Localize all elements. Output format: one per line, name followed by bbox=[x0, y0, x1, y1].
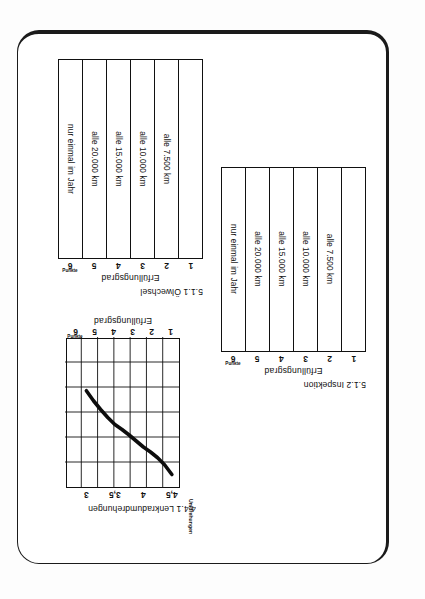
chart-data-curve bbox=[65, 337, 179, 487]
x-tick-label: 3,5 bbox=[109, 490, 121, 500]
scale-cell-text: nur einmal im Jahr bbox=[229, 224, 238, 294]
punkte-unit-note: Punkte bbox=[225, 357, 240, 370]
y-tick-label: 4 bbox=[104, 325, 123, 338]
figure-oelwechsel-tick-row: 1 2 3 4 5 6 Punkte bbox=[58, 259, 203, 272]
scale-cell bbox=[341, 168, 365, 351]
tick-label: 5 bbox=[245, 352, 269, 365]
tick-label: 2 bbox=[155, 259, 179, 272]
scale-cell: alle 20.000 km bbox=[245, 168, 269, 351]
tick-label: 4 bbox=[106, 259, 130, 272]
x-tick-label: 4 bbox=[141, 490, 146, 500]
x-tick-label: 4,5 bbox=[166, 490, 178, 500]
scale-cell-text: alle 7.500 km bbox=[325, 234, 334, 285]
figure-oelwechsel-axis-title: Erfüllungsgrad bbox=[58, 273, 203, 283]
figure-oelwechsel: 5.1.1 Ölwechsel Erfüllungsgrad 1 2 3 4 5… bbox=[58, 59, 203, 297]
y-tick-label-six: 6 Punkte bbox=[66, 325, 85, 338]
punkte-unit-note: Punkte bbox=[62, 264, 77, 277]
y-tick-label: 5 bbox=[85, 325, 104, 338]
tick-label-six: 6 Punkte bbox=[221, 352, 245, 365]
scale-cell: alle 10.000 km bbox=[293, 168, 317, 351]
y-tick-label: 2 bbox=[142, 325, 161, 338]
figure-inspektion: 5.1.2 Inspektion Erfüllungsgrad 1 2 3 4 … bbox=[221, 167, 366, 390]
figure-lenkrad-caption: 4.4.1 Lenkradumdrehungen bbox=[44, 504, 196, 514]
tick-label: 5 bbox=[82, 259, 106, 272]
scale-cell: alle 7.500 km bbox=[154, 60, 178, 258]
figure-inspektion-tick-row: 1 2 3 4 5 6 Punkte bbox=[221, 352, 366, 365]
scale-cell: alle 7.500 km bbox=[317, 168, 341, 351]
line-chart-y-ticks: 1 2 3 4 5 6 Punkte bbox=[66, 325, 180, 338]
scale-cell-text: alle 20.000 km bbox=[253, 232, 262, 287]
scale-cell: alle 15.000 km bbox=[269, 168, 293, 351]
tick-label-six: 6 Punkte bbox=[58, 259, 82, 272]
tick-label: 2 bbox=[318, 352, 342, 365]
scale-cell: nur einmal im Jahr bbox=[222, 168, 245, 351]
line-chart-plot-area bbox=[66, 338, 180, 488]
figure-inspektion-table: alle 7.500 km alle 10.000 km alle 15.000… bbox=[221, 167, 366, 352]
scale-cell-text: nur einmal im Jahr bbox=[66, 124, 75, 194]
y-tick-label: 1 bbox=[161, 325, 180, 338]
scale-cell bbox=[178, 60, 202, 258]
scale-cell-text: alle 15.000 km bbox=[277, 232, 286, 287]
line-chart-x-ticks: 4,5 4 3,5 3 Umdrehungen bbox=[66, 488, 180, 500]
figure-lenkradumdrehungen: 4.4.1 Lenkradumdrehungen 4,5 4 3,5 3 Umd… bbox=[44, 316, 196, 514]
tick-label: 1 bbox=[342, 352, 366, 365]
x-axis-title: Umdrehungen bbox=[188, 499, 194, 534]
scanned-page-frame: 5.1.1 Ölwechsel Erfüllungsgrad 1 2 3 4 5… bbox=[17, 30, 389, 564]
page-content-area: 5.1.1 Ölwechsel Erfüllungsgrad 1 2 3 4 5… bbox=[18, 34, 386, 563]
scale-cell-text: alle 20.000 km bbox=[90, 131, 99, 186]
scale-cell: alle 20.000 km bbox=[82, 60, 106, 258]
figure-inspektion-axis-title: Erfüllungsgrad bbox=[221, 366, 366, 376]
scale-cell: nur einmal im Jahr bbox=[59, 60, 82, 258]
scale-cell-text: alle 10.000 km bbox=[301, 232, 310, 287]
tick-label: 3 bbox=[130, 259, 154, 272]
tick-label: 3 bbox=[293, 352, 317, 365]
scale-cell: alle 15.000 km bbox=[106, 60, 130, 258]
y-tick-label: 3 bbox=[123, 325, 142, 338]
tick-label: 4 bbox=[269, 352, 293, 365]
punkte-unit-note: Punkte bbox=[68, 330, 83, 343]
figure-oelwechsel-table: alle 7.500 km alle 10.000 km alle 15.000… bbox=[58, 59, 203, 259]
tick-label: 1 bbox=[179, 259, 203, 272]
scale-cell: alle 10.000 km bbox=[130, 60, 154, 258]
scale-cell-text: alle 15.000 km bbox=[114, 131, 123, 186]
x-tick-label: 3 bbox=[84, 490, 89, 500]
figure-inspektion-caption: 5.1.2 Inspektion bbox=[221, 380, 366, 390]
figure-oelwechsel-caption: 5.1.1 Ölwechsel bbox=[58, 287, 203, 297]
scale-cell-text: alle 10.000 km bbox=[138, 131, 147, 186]
scale-cell-text: alle 7.500 km bbox=[162, 134, 171, 185]
